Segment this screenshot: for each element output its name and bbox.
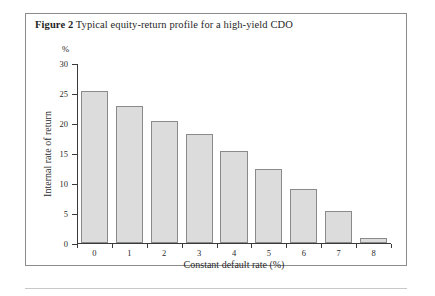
- x-axis-line: [77, 243, 391, 244]
- y-axis-tick-label: 5: [64, 209, 68, 219]
- x-axis-tick-label: 0: [92, 248, 96, 258]
- y-axis-tick: 20: [72, 124, 78, 125]
- x-axis-tick: [321, 244, 322, 248]
- x-axis-tick-label: 4: [232, 248, 236, 258]
- y-axis-tick: 15: [72, 154, 78, 155]
- y-axis-tick-label: 25: [60, 89, 69, 99]
- bar: [325, 211, 352, 243]
- y-axis-tick: 5: [72, 214, 78, 215]
- y-axis-unit-label: %: [62, 44, 69, 54]
- figure-caption: Typical equity-return profile for a high…: [76, 19, 293, 30]
- bar: [186, 134, 213, 243]
- x-axis-tick-label: 2: [162, 248, 166, 258]
- y-axis-tick-label: 20: [60, 119, 69, 129]
- y-axis-tick: 30: [72, 64, 78, 65]
- bar: [290, 189, 317, 243]
- x-axis-tick-label: 8: [371, 248, 375, 258]
- figure-page: Figure 2 Typical equity-return profile f…: [0, 0, 435, 296]
- figure-number: Figure 2: [35, 19, 73, 30]
- x-axis-tick: [112, 244, 113, 248]
- x-axis-tick: [217, 244, 218, 248]
- bar: [255, 169, 282, 243]
- y-axis-title: Internal rate of return: [40, 64, 54, 244]
- bar: [81, 91, 108, 243]
- y-axis-tick-label: 15: [60, 149, 69, 159]
- x-axis-tick-label: 3: [197, 248, 201, 258]
- x-axis-tick: [391, 244, 392, 248]
- figure-title: Figure 2 Typical equity-return profile f…: [35, 19, 293, 30]
- x-axis-tick: [251, 244, 252, 248]
- y-axis-tick-label: 30: [60, 59, 69, 69]
- x-axis-title: Constant default rate (%): [77, 259, 391, 270]
- x-axis-tick-label: 1: [127, 248, 131, 258]
- x-axis-tick: [356, 244, 357, 248]
- plot-area: 051015202530 012345678: [77, 64, 391, 244]
- y-axis-tick: 10: [72, 184, 78, 185]
- x-axis-tick: [182, 244, 183, 248]
- horizontal-rule: [25, 288, 407, 289]
- bar: [220, 151, 247, 243]
- x-axis-tick-label: 6: [302, 248, 306, 258]
- bar: [116, 106, 143, 243]
- figure-container: Figure 2 Typical equity-return profile f…: [25, 13, 407, 266]
- bar: [151, 121, 178, 243]
- bar: [360, 238, 387, 243]
- y-axis-tick-label: 0: [64, 239, 68, 249]
- x-axis-tick: [147, 244, 148, 248]
- x-axis-tick: [286, 244, 287, 248]
- x-axis-tick-label: 5: [267, 248, 271, 258]
- y-axis-tick-label: 10: [60, 179, 69, 189]
- y-axis-tick: 25: [72, 94, 78, 95]
- x-axis-tick-label: 7: [337, 248, 341, 258]
- x-axis-tick: [77, 244, 78, 248]
